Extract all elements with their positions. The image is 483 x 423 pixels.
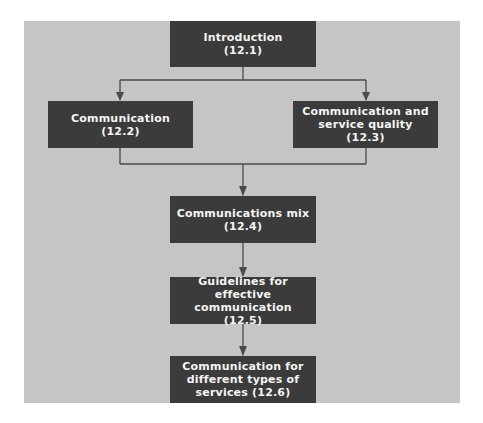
node-communications-mix: Communications mix (12.4) <box>170 196 316 243</box>
arrow-head <box>239 346 247 356</box>
node-label: Communication and service quality (12.3) <box>299 105 432 144</box>
node-communication-service-quality: Communication and service quality (12.3) <box>293 101 438 148</box>
node-introduction: Introduction (12.1) <box>170 21 316 67</box>
node-label: Communication for different types of ser… <box>182 360 303 399</box>
arrow-head <box>116 92 124 101</box>
arrow-head <box>239 186 247 196</box>
arrow-head <box>362 92 370 101</box>
node-label: Guidelines for effective communication (… <box>176 275 310 327</box>
node-label: Communication (12.2) <box>71 112 170 138</box>
node-label: Introduction (12.1) <box>203 31 282 57</box>
node-service-types: Communication for different types of ser… <box>170 356 316 403</box>
node-label: Communications mix (12.4) <box>177 207 310 233</box>
node-guidelines: Guidelines for effective communication (… <box>170 277 316 324</box>
node-communication: Communication (12.2) <box>48 101 193 148</box>
